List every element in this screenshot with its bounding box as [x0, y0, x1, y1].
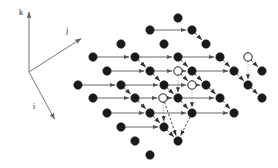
axis-line-j [29, 39, 81, 72]
lattice-node-filled [74, 81, 82, 89]
lattice-node-layer [74, 14, 266, 159]
dashed-arrow [223, 101, 230, 109]
lattice-node-filled [89, 94, 97, 102]
lattice-node-filled [216, 53, 224, 61]
lattice-node-filled [146, 151, 154, 159]
lattice-diagram-canvas: kji [0, 0, 278, 168]
lattice-node-filled [188, 67, 196, 75]
dotted-arrow [163, 102, 164, 121]
dashed-arrow [153, 74, 160, 81]
lattice-node-filled [117, 123, 125, 131]
lattice-node-filled [174, 137, 182, 145]
lattice-node-filled [146, 26, 154, 34]
lattice-node-filled [174, 94, 182, 102]
lattice-node-filled [146, 109, 154, 117]
lattice-figure-svg: kji [0, 0, 278, 168]
lattice-node-filled [188, 26, 196, 34]
lattice-node-filled [160, 123, 168, 131]
lattice-node-filled [258, 67, 266, 75]
dashed-arrow [181, 74, 188, 81]
lattice-node-open [188, 81, 196, 89]
axis-label-i: i [33, 102, 36, 111]
dashed-arrow [209, 88, 216, 94]
dashed-arrow [138, 101, 146, 109]
lattice-node-open [174, 67, 182, 75]
dashed-arrow [167, 130, 174, 137]
lattice-node-filled [174, 14, 182, 22]
dashed-arrow [138, 60, 146, 67]
lattice-node-open [244, 53, 252, 61]
dashed-arrow [195, 74, 202, 81]
lattice-node-filled [131, 53, 139, 61]
axis-label-j: j [65, 26, 68, 35]
lattice-node-filled [117, 81, 125, 89]
dashed-arrow [237, 74, 244, 81]
lattice-node-filled [230, 109, 238, 117]
dashed-arrow [251, 88, 258, 94]
lattice-node-filled [146, 67, 154, 75]
axis-label-k: k [19, 8, 23, 17]
lattice-node-filled [131, 94, 139, 102]
lattice-node-filled [117, 40, 125, 48]
lattice-node-filled [230, 67, 238, 75]
dashed-arrow [167, 88, 174, 94]
lattice-node-filled [188, 109, 196, 117]
lattice-node-filled [202, 81, 210, 89]
dashed-arrow [181, 101, 188, 109]
dashed-arrow [181, 60, 188, 67]
dashed-arrow [223, 60, 230, 67]
coordinate-axes [29, 12, 81, 119]
dashed-arrow [195, 33, 202, 40]
lattice-node-filled [89, 53, 97, 61]
lattice-node-filled [202, 40, 210, 48]
lattice-node-filled [174, 53, 182, 61]
dashed-arrow [124, 88, 131, 94]
lattice-node-open [159, 94, 167, 102]
dashed-arrow [181, 117, 191, 136]
lattice-node-filled [244, 81, 252, 89]
lattice-node-filled [103, 109, 111, 117]
lattice-node-filled [131, 137, 139, 145]
dashed-arrow [153, 116, 160, 123]
axis-label-layer: kji [19, 8, 68, 111]
lattice-node-filled [103, 67, 111, 75]
lattice-node-filled [160, 81, 168, 89]
dashed-arrow [251, 60, 258, 67]
lattice-node-filled [160, 40, 168, 48]
lattice-node-filled [216, 94, 224, 102]
axis-line-i [29, 72, 55, 119]
lattice-node-filled [258, 94, 266, 102]
